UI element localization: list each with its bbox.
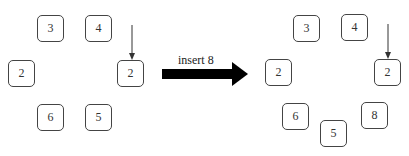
head-pointer-arrow-icon <box>127 25 137 61</box>
after-node-2-left: 2 <box>265 59 292 86</box>
transform-arrow-icon <box>162 61 248 87</box>
before-node-2-left: 2 <box>8 60 35 87</box>
before-node-5: 5 <box>85 104 112 131</box>
after-node-6: 6 <box>282 103 309 130</box>
before-node-2-head: 2 <box>117 60 144 87</box>
after-node-3: 3 <box>293 15 320 42</box>
before-node-3: 3 <box>37 15 64 42</box>
before-node-6: 6 <box>37 104 64 131</box>
before-node-4: 4 <box>85 15 112 42</box>
head-pointer-arrow-icon <box>383 24 393 60</box>
after-node-8-inserted: 8 <box>361 102 388 129</box>
after-node-2-head: 2 <box>374 59 401 86</box>
after-node-4: 4 <box>341 14 368 41</box>
after-node-5: 5 <box>320 120 347 147</box>
